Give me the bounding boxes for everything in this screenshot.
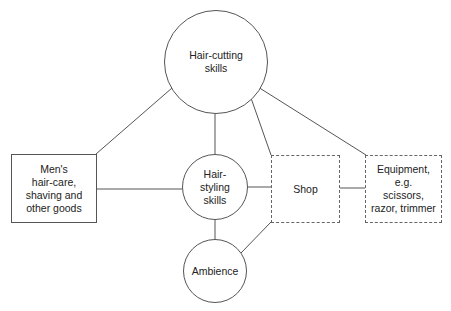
diagram-canvas: Hair-cutting skills Hair- styling skills…: [0, 0, 451, 311]
node-hair-styling-skills: Hair- styling skills: [182, 154, 248, 220]
edge-hair-cutting-to-mens-goods: [96, 88, 172, 154]
node-hair-cutting-skills: Hair-cutting skills: [164, 10, 268, 114]
node-equipment: Equipment, e.g. scissors, razor, trimmer: [365, 155, 442, 223]
node-ambience: Ambience: [183, 239, 247, 303]
node-label: Equipment, e.g. scissors, razor, trimmer: [371, 163, 436, 215]
edge-hair-cutting-to-equipment: [258, 87, 366, 155]
node-label: Hair- styling skills: [200, 168, 230, 207]
node-label: Hair-cutting skills: [189, 49, 243, 75]
node-shop: Shop: [271, 155, 340, 223]
edge-ambience-to-shop: [241, 222, 271, 253]
node-label: Men's hair-care, shaving and other goods: [26, 163, 83, 215]
node-label: Ambience: [192, 265, 239, 278]
edge-hair-cutting-to-shop: [251, 98, 271, 155]
node-label: Shop: [293, 183, 318, 196]
node-mens-goods: Men's hair-care, shaving and other goods: [11, 154, 97, 223]
